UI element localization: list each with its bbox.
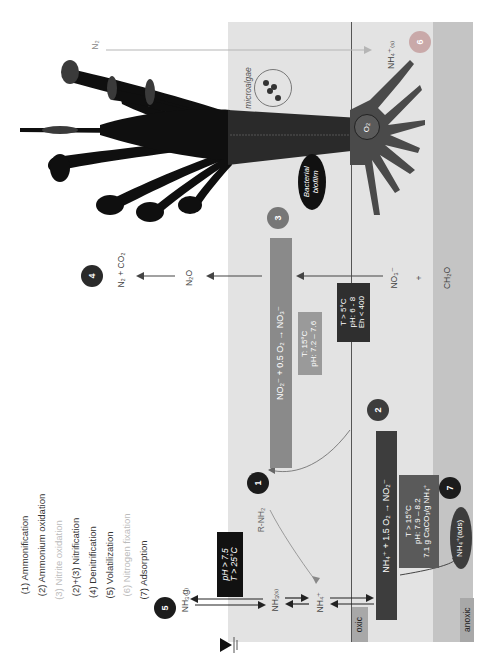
legend-item-nitrite-oxidation: (3) Nitrite oxidation xyxy=(54,520,64,600)
conditions-volatilization: pH > 7.5T > 25°C xyxy=(217,532,243,597)
nh4-adsorbed: NH₄⁺(ads) xyxy=(450,507,472,569)
label-n2o: N₂O xyxy=(185,270,194,286)
label-microalgae: microalgae xyxy=(244,67,253,109)
legend-item-adsorption: (7) Adsorption xyxy=(139,540,149,599)
marker-5-volatilization: 5 xyxy=(154,597,176,619)
anoxic-label: anoxic xyxy=(460,598,474,642)
o2-bubble: O₂ xyxy=(354,114,380,140)
label-n2: N₂ xyxy=(91,40,100,49)
microalgae-icon xyxy=(254,69,292,107)
marker-2-ammonium-oxidation: 2 xyxy=(367,399,389,421)
marker-4-denitrification: 4 xyxy=(81,265,103,287)
marker-1-ammonification: 1 xyxy=(247,472,269,494)
marker-7-adsorption: 7 xyxy=(439,477,461,499)
label-nh4: NH₄⁺ xyxy=(316,592,325,613)
label-nh3-g: NH₃₍g₎ xyxy=(181,588,190,612)
label-n2-co2: N₂ + CO₂ xyxy=(117,252,126,287)
reaction-nitrite-oxidation: NO₂⁻ + 0.5 O₂ → NO₃⁻ xyxy=(270,238,292,468)
marker-6-nitrogen-fixation: 6 xyxy=(409,31,431,53)
legend-item-nitrification: (2)+(3) Nitrification xyxy=(71,518,81,596)
label-r-nh2: R-NH₂ xyxy=(257,508,266,533)
marker-3-nitrite-oxidation: 3 xyxy=(267,207,289,229)
label-plus: + xyxy=(415,276,424,281)
label-nh3-s: NH₃₍ₛ₎ xyxy=(271,589,280,612)
conditions-ammonium-oxidation: T > 15°CpH: 7.9 – 8.27.1 g CaCO₃/g NH₄⁺ xyxy=(399,475,439,568)
label-ch2o: CH₂O xyxy=(443,267,452,289)
conditions-nitrite-oxidation: T: 15°CpH: 7.2 – 7.6 xyxy=(298,312,322,375)
legend-item-ammonium-oxidation: (2) Ammonium oxidation xyxy=(37,494,47,596)
oxic-label: oxic xyxy=(352,607,368,642)
legend-item-volatilization: (5) Volatilization xyxy=(105,531,115,598)
bacterial-biofilm: Bacterialbiofilm xyxy=(298,154,326,210)
label-no3: NO₃⁻ xyxy=(390,267,399,288)
legend-item-denitrification: (4) Denitrification xyxy=(88,526,98,598)
plant-icon xyxy=(20,60,232,222)
label-nh4-s: NH₄⁺₍ₛ₎ xyxy=(387,41,396,69)
conditions-denitrification: T > 5°CpH: 6 - 8Eh < 400 xyxy=(337,283,370,342)
legend-item-ammonification: (1) Ammonification xyxy=(20,516,30,595)
reaction-ammonium-oxidation: NH₄⁺ + 1.5 O₂ → NO₂⁻ xyxy=(376,431,397,620)
legend-item-nitrogen-fixation: (6) Nitrogen fixation xyxy=(122,514,132,597)
